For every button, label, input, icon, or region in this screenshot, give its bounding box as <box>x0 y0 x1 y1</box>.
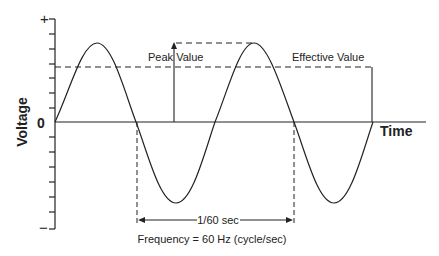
effective-value-label: Effective Value <box>292 51 364 63</box>
minus-label: − <box>39 219 48 236</box>
peak-value-label: Peak Value <box>148 51 203 63</box>
period-label: 1/60 sec <box>197 214 239 226</box>
frequency-label: Frequency = 60 Hz (cycle/sec) <box>138 233 287 245</box>
sine-wave-diagram: + − 0 Voltage Time Peak Value Effective … <box>0 0 439 256</box>
time-axis-label: Time <box>380 123 413 139</box>
zero-label: 0 <box>37 115 45 131</box>
voltage-axis-label: Voltage <box>14 97 30 147</box>
arrow-left-icon <box>138 217 145 223</box>
arrow-right-icon <box>286 217 293 223</box>
plus-label: + <box>40 10 49 27</box>
voltage-axis <box>49 19 55 229</box>
